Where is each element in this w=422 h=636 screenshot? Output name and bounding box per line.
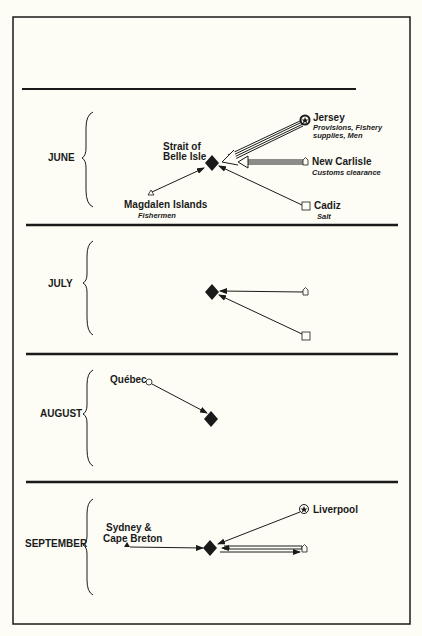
month-label-august: AUGUST — [40, 408, 82, 419]
flow-jersey-to-hub — [222, 120, 303, 165]
month-label-september: SEPTEMBER — [25, 538, 88, 549]
note-jersey-2: supplies, Men — [313, 131, 363, 140]
jersey-star-icon — [301, 116, 310, 125]
note-cadiz: Salt — [317, 212, 331, 221]
note-new-carlisle: Customs clearance — [312, 168, 381, 177]
outer-frame — [13, 17, 410, 624]
hub-diamond-icon-september — [203, 540, 217, 556]
label-sydney-line1: Sydney & — [106, 522, 152, 533]
flow-magdalen-to-hub — [152, 168, 204, 192]
label-jersey: Jersey — [313, 112, 345, 123]
brace-july — [83, 241, 93, 335]
label-new-carlisle: New Carlisle — [312, 156, 372, 167]
brace-june — [82, 112, 93, 207]
cadiz-square-icon — [302, 202, 310, 210]
section-september: SEPTEMBER Sydney & Cape Breton Liverpool — [25, 499, 358, 595]
label-hub-line2: Belle Isle — [163, 151, 207, 162]
label-quebec: Québec — [110, 374, 147, 385]
flow-new-carlisle-hub-exchange — [220, 546, 302, 552]
hub-diamond-icon-august — [204, 411, 218, 427]
liverpool-star-icon — [300, 505, 309, 514]
quebec-circle-icon — [146, 379, 152, 385]
month-label-july: JULY — [48, 278, 73, 289]
label-liverpool: Liverpool — [313, 504, 358, 515]
label-sydney-line2: Cape Breton — [103, 533, 162, 544]
new-carlisle-house-icon-september — [302, 545, 307, 553]
hub-diamond-icon-june — [205, 155, 219, 171]
flow-sydney-to-hub — [130, 547, 203, 548]
flow-new-carlisle-to-hub-july — [220, 291, 303, 292]
section-august: AUGUST Québec — [40, 370, 218, 466]
flow-quebec-to-hub — [152, 384, 207, 413]
new-carlisle-house-icon — [303, 158, 308, 166]
flow-new-carlisle-to-hub — [238, 156, 303, 168]
seasonal-flow-diagram: JUNE Jersey Provisions, Fishery supplies… — [0, 0, 422, 636]
cadiz-square-icon-july — [302, 332, 310, 340]
hub-diamond-icon-july — [205, 284, 219, 300]
new-carlisle-house-icon-july — [303, 288, 308, 296]
flow-liverpool-to-hub — [218, 512, 300, 544]
month-label-june: JUNE — [48, 152, 75, 163]
flow-cadiz-to-hub-july — [219, 295, 302, 334]
note-magdalen: Fishermen — [138, 211, 176, 220]
label-cadiz: Cadiz — [314, 200, 341, 211]
section-june: JUNE Jersey Provisions, Fishery supplies… — [48, 112, 383, 221]
label-magdalen-islands: Magdalen Islands — [124, 199, 208, 210]
magdalen-triangle-icon — [148, 190, 154, 195]
brace-august — [83, 370, 93, 466]
section-july: JULY — [48, 241, 310, 340]
flow-cadiz-to-hub — [219, 166, 302, 205]
